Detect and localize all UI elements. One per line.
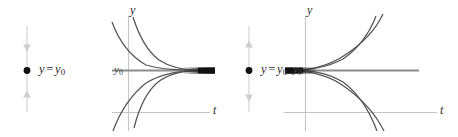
arrow-down-icon — [245, 95, 253, 103]
unstable-equilibrium-label: y=y0 — [261, 63, 287, 77]
equilibrium-dot — [24, 67, 31, 74]
phase-line-unstable — [245, 26, 253, 112]
solution-curve — [134, 71, 198, 128]
unstable-y0-value-label: y0 — [293, 64, 302, 76]
figure-root: y=y0 y t y0 — [0, 0, 458, 137]
label-y: y — [261, 62, 267, 76]
solution-curve — [112, 22, 198, 70]
equilibrium-dot — [246, 67, 253, 74]
unstable-t-axis-label: t — [440, 104, 443, 116]
stable-t-axis-label: t — [213, 104, 216, 116]
solution-curves-converging — [112, 17, 198, 131]
solution-curve — [291, 16, 376, 70]
stable-equilibrium-label: y=y0 — [39, 63, 65, 77]
stable-y0-value-label: y0 — [114, 64, 123, 76]
y0-subscript: 0 — [298, 68, 302, 77]
unstable-y-axis-label: y — [307, 4, 312, 16]
label-equals: = — [45, 62, 55, 76]
stable-y-axis-label: y — [130, 4, 135, 16]
label-y: y — [39, 62, 45, 76]
phase-line-stable — [23, 26, 31, 112]
label-equals: = — [267, 62, 277, 76]
arrow-up-icon — [245, 40, 253, 48]
panel-unstable-equilibrium: y=y0 y t y0 — [229, 0, 458, 137]
solution-curve — [291, 70, 377, 131]
arrow-up-icon — [23, 90, 31, 98]
label-y0-subscript: 0 — [283, 67, 287, 77]
label-y0-subscript: 0 — [61, 67, 65, 77]
solution-curve — [113, 71, 198, 131]
arrow-down-icon — [23, 45, 31, 53]
panel-stable-equilibrium: y=y0 y t y0 — [0, 0, 229, 137]
y0-subscript: 0 — [119, 68, 123, 77]
